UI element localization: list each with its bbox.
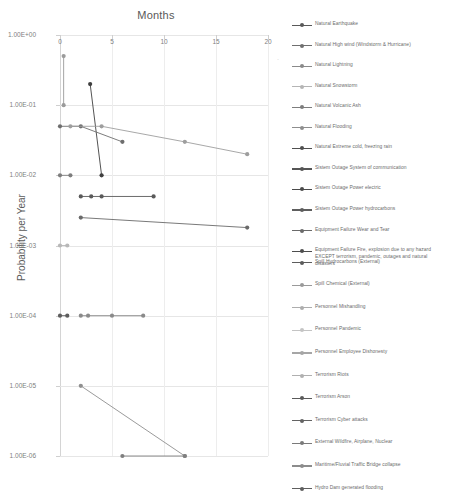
series-group (58, 173, 73, 177)
series-line (81, 218, 247, 228)
legend-symbol-icon (292, 185, 312, 193)
data-point-marker (141, 314, 145, 318)
legend-symbol-icon (292, 62, 312, 70)
legend-symbol-icon (292, 349, 312, 357)
legend-marker-icon (300, 306, 304, 310)
legend-item[interactable]: Natural High wind (Windstorm & Hurricane… (292, 41, 449, 50)
legend-item-label: Sistem Outage System of communication (315, 164, 407, 171)
legend-symbol-icon (292, 42, 312, 50)
series-group (79, 384, 187, 458)
legend-item-label: Equipment Failure Wear and Tear (315, 226, 390, 233)
legend-item[interactable]: Natural Lightning (292, 61, 449, 70)
data-point-marker (89, 194, 93, 198)
legend-item[interactable]: Spill Hydrocarbons (External) (292, 258, 449, 267)
legend-marker-icon (300, 187, 304, 191)
y-tick-label: 1.00E+00 (0, 31, 36, 38)
legend-item[interactable]: Terrorism Arson (292, 393, 449, 402)
data-point-marker (58, 124, 62, 128)
legend-item-label: Sistem Outage Power hydrocarbons (315, 205, 395, 212)
legend-symbol-icon (292, 417, 312, 425)
legend-item-label: External Wildfire, Airplane, Nuclear (315, 438, 392, 445)
data-point-marker (65, 243, 69, 247)
legend-item-label: Natural Lightning (315, 61, 353, 68)
legend-item[interactable]: Terrorism Riots (292, 371, 449, 380)
legend-item[interactable]: Maritime/Fluvial Traffic Bridge collapse (292, 461, 449, 470)
data-point-marker (110, 314, 114, 318)
legend-item[interactable]: Spill Chemical (External) (292, 280, 449, 289)
legend-marker-icon (300, 396, 304, 400)
legend-symbol-icon (292, 462, 312, 470)
legend-item-label: Hydro Dam generated flooding (315, 484, 383, 491)
legend-symbol-icon (292, 259, 312, 267)
y-tick-label: 1.00E-02 (0, 171, 36, 178)
series-line (81, 386, 185, 456)
legend-symbol-icon (292, 304, 312, 312)
legend-marker-icon (300, 146, 304, 150)
legend-item-label: Personnel Employee Dishonesty (315, 348, 387, 355)
data-point-marker (68, 173, 72, 177)
legend-item-label: Natural Extreme cold, freezing rain (315, 143, 392, 150)
legend-item[interactable]: Natural Volcanic Ash (292, 102, 449, 111)
series-group (120, 454, 187, 458)
legend-symbol-icon (292, 165, 312, 173)
legend-item[interactable]: Natural Flooding (292, 123, 449, 132)
legend-item[interactable]: Personnel Pandemic (292, 325, 449, 334)
series-group (58, 243, 69, 247)
legend-symbol-icon (292, 124, 312, 132)
legend-item[interactable]: Hydro Dam generated flooding (292, 484, 449, 493)
legend-item[interactable]: Natural Extreme cold, freezing rain (292, 143, 449, 152)
legend-marker-icon (300, 44, 304, 48)
data-point-marker (100, 194, 104, 198)
legend-symbol-icon (292, 247, 312, 255)
legend-item-label: Natural Earthquake (315, 20, 358, 27)
y-tick-label: 1.00E-06 (0, 452, 36, 459)
gridline-vertical (268, 35, 269, 456)
legend-item[interactable]: Sistem Outage Power hydrocarbons (292, 205, 449, 214)
legend-item[interactable]: External Wildfire, Airplane, Nuclear (292, 438, 449, 447)
legend-item[interactable]: Personnel Employee Dishonesty (292, 348, 449, 357)
legend-item-label: Spill Hydrocarbons (External) (315, 258, 380, 265)
legend-item-label: Terrorism Cyber attacks (315, 416, 368, 423)
legend-item[interactable]: Terrorism Cyber attacks (292, 416, 449, 425)
legend-item[interactable]: Personnel Mishandling (292, 303, 449, 312)
legend-item[interactable]: Sistem Outage System of communication (292, 164, 449, 173)
data-point-marker (65, 314, 69, 318)
legend-item[interactable]: Sistem Outage Power electric (292, 184, 449, 193)
legend-symbol-icon (292, 103, 312, 111)
legend-symbol-icon (292, 394, 312, 402)
series-group (79, 314, 146, 318)
legend-symbol-icon (292, 281, 312, 289)
legend-symbol-icon (292, 227, 312, 235)
data-point-marker (62, 54, 66, 58)
legend-marker-icon (300, 85, 304, 89)
legend-marker-icon (300, 374, 304, 378)
legend-marker-icon (300, 249, 304, 253)
data-point-marker (79, 314, 83, 318)
legend-symbol-icon (292, 21, 312, 29)
legend-symbol-icon (292, 144, 312, 152)
series-group (62, 54, 66, 107)
legend-marker-icon (300, 283, 304, 287)
chart-page: Months Probability per Year 1.00E+001.00… (0, 0, 449, 504)
data-point-marker (245, 152, 249, 156)
legend-marker-icon (300, 419, 304, 423)
data-point-marker (58, 243, 62, 247)
legend-marker-icon (300, 229, 304, 233)
legend-symbol-icon (292, 206, 312, 214)
y-tick-mark (56, 456, 60, 457)
data-point-marker (183, 140, 187, 144)
legend-item-label: Terrorism Arson (315, 393, 350, 400)
legend-item[interactable]: Natural Earthquake (292, 20, 449, 29)
legend-item-label: Natural Snowstorm (315, 82, 357, 89)
legend-marker-icon (300, 23, 304, 27)
legend-symbol-icon (292, 326, 312, 334)
legend-item[interactable]: Natural Snowstorm (292, 82, 449, 91)
y-tick-label: 1.00E-05 (0, 382, 36, 389)
legend-item[interactable]: Equipment Failure Wear and Tear (292, 226, 449, 235)
data-point-marker (68, 124, 72, 128)
legend-marker-icon (300, 208, 304, 212)
legend-marker-icon (300, 105, 304, 109)
data-point-marker (58, 314, 62, 318)
data-point-marker (79, 194, 83, 198)
data-point-marker (86, 314, 90, 318)
